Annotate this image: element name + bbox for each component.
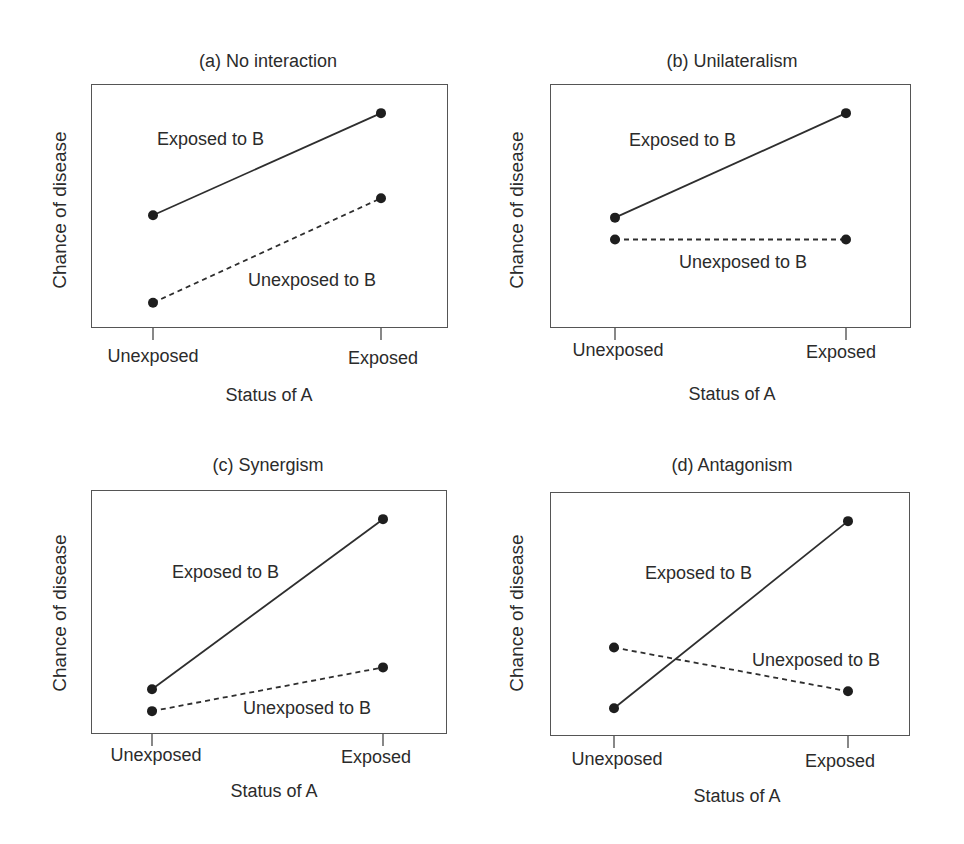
data-point-marker <box>843 686 853 696</box>
exposed-to-b-line <box>615 113 846 217</box>
data-point-marker <box>147 684 157 694</box>
exposed-to-b-line <box>152 519 383 689</box>
exposed-to-b-line <box>153 113 381 215</box>
data-point-marker <box>376 108 386 118</box>
data-point-marker <box>378 662 388 672</box>
unexposed-to-b-line <box>153 198 381 302</box>
unexposed-to-b-line <box>614 648 848 692</box>
unexposed-to-b-line <box>152 667 383 711</box>
data-point-marker <box>378 514 388 524</box>
data-point-marker <box>376 193 386 203</box>
data-point-marker <box>610 213 620 223</box>
data-point-marker <box>147 706 157 716</box>
data-point-marker <box>148 298 158 308</box>
exposed-to-b-line <box>614 521 848 708</box>
data-point-marker <box>841 108 851 118</box>
data-point-marker <box>609 643 619 653</box>
data-point-marker <box>841 235 851 245</box>
plot-lines <box>0 0 964 844</box>
data-point-marker <box>148 210 158 220</box>
data-point-marker <box>843 516 853 526</box>
data-point-marker <box>610 235 620 245</box>
data-point-marker <box>609 703 619 713</box>
